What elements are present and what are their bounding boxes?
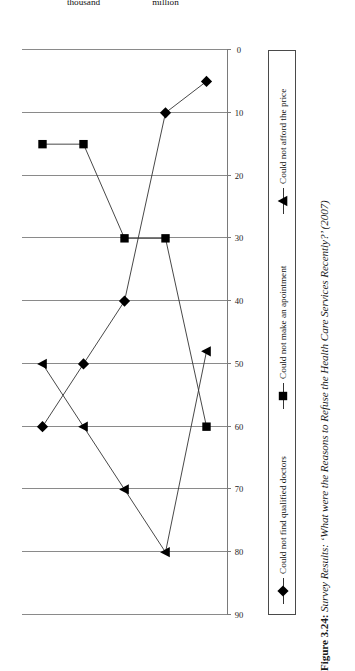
tick-label-0: 0 — [227, 45, 251, 55]
square-marker-icon — [79, 140, 87, 148]
legend-item-3[interactable]: Could not afford the price — [269, 89, 297, 214]
square-marker-icon — [161, 234, 169, 242]
square-marker-icon — [38, 140, 46, 148]
diamond-marker-icon — [160, 107, 171, 118]
legend-item-1[interactable]: Could not find qualified doctors — [269, 456, 297, 604]
legend-item-2[interactable]: Could not make an apointment — [269, 266, 297, 409]
figure-caption: Figure 3.24: Survey Results: ‘What were … — [318, 0, 330, 671]
diamond-marker-icon — [119, 296, 130, 307]
series-layer — [22, 50, 227, 615]
tick-label-50: 50 — [227, 359, 251, 369]
legend-label-1: Could not find qualified doctors — [278, 456, 288, 574]
tick-label-30: 30 — [227, 233, 251, 243]
tick-label-70: 70 — [227, 484, 251, 494]
diamond-marker-icon — [277, 578, 289, 604]
triangle-marker-icon — [160, 547, 170, 557]
square-marker-icon — [202, 422, 210, 430]
category-label-4: Urban villages with population of less t… — [36, 0, 132, 7]
category-label-2: Cities with population of 100 thousand t… — [118, 0, 214, 7]
chart-legend: Could not find qualified doctorsCould no… — [268, 50, 296, 615]
square-marker-icon — [120, 234, 128, 242]
legend-label-2: Could not make an apointment — [278, 266, 288, 379]
tick-label-80: 80 — [227, 547, 251, 557]
series-line-triangle — [43, 351, 207, 552]
triangle-marker-icon — [78, 422, 88, 432]
diamond-marker-icon — [37, 421, 48, 432]
diamond-marker-icon — [78, 358, 89, 369]
tick-label-40: 40 — [227, 296, 251, 306]
square-marker-icon — [277, 383, 289, 409]
plot-area: 9080706050403020100 — [22, 50, 227, 615]
triangle-marker-icon — [119, 484, 129, 494]
triangle-marker-icon — [277, 188, 289, 214]
tick-label-10: 10 — [227, 108, 251, 118]
series-line-square — [43, 144, 207, 427]
tick-label-20: 20 — [227, 171, 251, 181]
series-line-diamond — [43, 81, 207, 426]
diamond-marker-icon — [201, 76, 212, 87]
value-axis-line — [227, 50, 228, 615]
chart-figure: Figure 3.24: Survey Results: ‘What were … — [0, 0, 355, 671]
figure-number: Figure 3.24: — [318, 615, 330, 671]
figure-caption-text: Survey Results: ‘What were the Reasons t… — [318, 200, 330, 612]
legend-label-3: Could not afford the price — [278, 89, 288, 184]
tick-label-90: 90 — [227, 610, 251, 620]
triangle-marker-icon — [37, 359, 47, 369]
tick-label-60: 60 — [227, 422, 251, 432]
